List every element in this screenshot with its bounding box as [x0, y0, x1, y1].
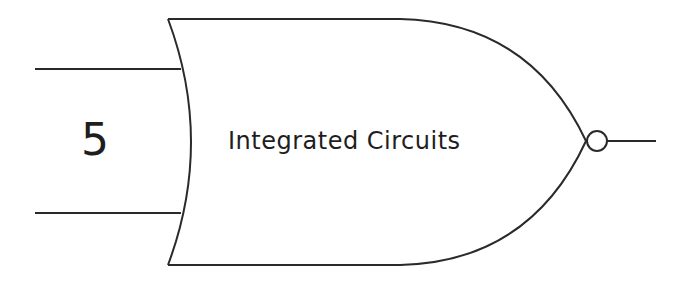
inversion-bubble [587, 131, 607, 151]
gate-back-curve [168, 19, 191, 265]
chapter-title: Integrated Circuits [228, 124, 461, 158]
chapter-number: 5 [50, 112, 140, 168]
